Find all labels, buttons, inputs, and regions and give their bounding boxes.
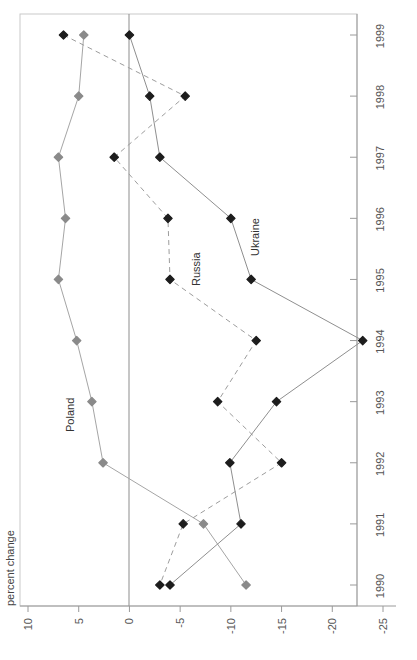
series-ukraine [125, 31, 367, 589]
data-point-poland-1991 [199, 520, 207, 528]
data-point-ukraine-1993 [272, 397, 280, 405]
value-tick-label: -20 [326, 618, 338, 634]
category-tick-label: 1995 [374, 268, 386, 292]
data-point-ukraine-1992 [226, 459, 234, 467]
category-tick-label: 1999 [374, 24, 386, 48]
data-point-poland-1993 [88, 397, 96, 405]
category-tick-label: 1994 [374, 329, 386, 353]
category-tick-label: 1996 [374, 207, 386, 231]
data-point-ukraine-1998 [146, 92, 154, 100]
category-axis-ticks [350, 35, 357, 585]
data-point-russia-1991 [179, 520, 187, 528]
series-annotation-russia: Russia [190, 251, 202, 286]
value-tick-label: 10 [22, 618, 34, 630]
data-point-russia-1990 [156, 581, 164, 589]
value-tick-label: -15 [276, 618, 288, 634]
category-tick-label: 1991 [374, 513, 386, 537]
data-point-poland-1997 [54, 153, 62, 161]
chart-svg: 1050-5-10-15-20-25 199919981997199619951… [0, 0, 417, 660]
data-point-ukraine-1995 [247, 275, 255, 283]
data-point-poland-1998 [75, 92, 83, 100]
data-point-russia-1995 [166, 275, 174, 283]
data-point-poland-1992 [99, 459, 107, 467]
chart-container: 1050-5-10-15-20-25 199919981997199619951… [0, 0, 417, 660]
category-tick-label: 1990 [374, 574, 386, 598]
value-axis: 1050-5-10-15-20-25 [20, 606, 396, 634]
value-tick-label: -10 [225, 618, 237, 634]
category-axis: 1999199819971996199519941993199219911990 [350, 14, 386, 606]
data-point-russia-1998 [181, 92, 189, 100]
value-tick-label: 0 [123, 618, 135, 624]
data-point-poland-1990 [242, 581, 250, 589]
series-line-russia [64, 35, 282, 585]
value-axis-title: percent change [4, 530, 16, 606]
data-point-poland-1995 [54, 275, 62, 283]
data-point-russia-1993 [213, 397, 221, 405]
category-tick-label: 1993 [374, 390, 386, 414]
value-axis-tick-labels: 1050-5-10-15-20-25 [22, 618, 389, 634]
series-annotation-ukraine: Ukraine [249, 218, 261, 256]
series-line-ukraine [129, 35, 362, 585]
data-point-russia-1994 [252, 336, 260, 344]
data-point-poland-1996 [61, 214, 69, 222]
data-point-ukraine-1999 [125, 31, 133, 39]
percent-change-label: percent change [4, 530, 16, 606]
series-annotation-poland: Poland [64, 398, 76, 432]
category-axis-tick-labels: 1999199819971996199519941993199219911990 [374, 24, 386, 598]
category-tick-label: 1992 [374, 452, 386, 476]
value-tick-label: 5 [73, 618, 85, 624]
data-point-poland-1999 [80, 31, 88, 39]
value-tick-label: -5 [174, 618, 186, 628]
category-tick-label: 1997 [374, 146, 386, 170]
data-point-ukraine-1994 [359, 336, 367, 344]
series-layer [54, 31, 367, 589]
value-axis-ticks [28, 606, 383, 612]
value-tick-label: -25 [377, 618, 389, 634]
data-point-poland-1994 [72, 336, 80, 344]
category-tick-label: 1998 [374, 85, 386, 109]
series-poland [54, 31, 250, 589]
data-point-russia-1999 [59, 31, 67, 39]
